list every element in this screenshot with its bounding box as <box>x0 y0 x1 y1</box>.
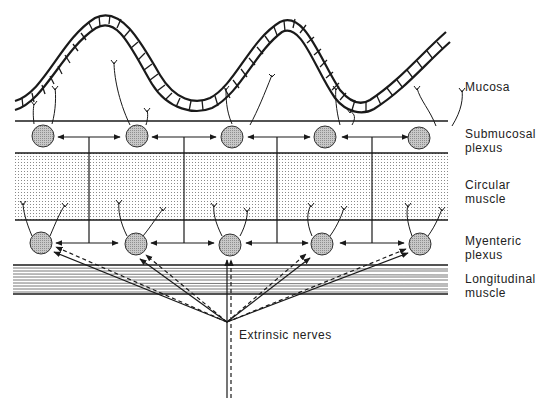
label-extrinsic-nerves: Extrinsic nerves <box>239 328 332 342</box>
circular-muscle-band <box>15 153 448 220</box>
submucosal-ganglion <box>32 125 54 147</box>
label-mucosa: Mucosa <box>465 80 510 94</box>
label-submucosal-line2: plexus <box>465 141 536 155</box>
submucosal-ganglion <box>126 125 148 147</box>
label-myenteric-line1: Myenteric <box>465 234 522 248</box>
submucosal-ganglion <box>408 127 430 149</box>
myenteric-ganglion <box>409 233 431 255</box>
label-submucosal-line1: Submucosal <box>465 127 536 141</box>
enteric-nervous-system-diagram <box>0 0 542 408</box>
label-longitudinal-muscle: Longitudinal muscle <box>465 272 536 300</box>
label-myenteric-line2: plexus <box>465 248 522 262</box>
label-circular-line2: muscle <box>465 192 510 206</box>
label-circular-line1: Circular <box>465 178 510 192</box>
myenteric-ganglion <box>311 233 333 255</box>
label-longitudinal-line2: muscle <box>465 286 536 300</box>
label-circular-muscle: Circular muscle <box>465 178 510 206</box>
label-submucosal-plexus: Submucosal plexus <box>465 127 536 155</box>
extrinsic-nerves <box>54 247 408 398</box>
label-longitudinal-line1: Longitudinal <box>465 272 536 286</box>
mucosa-epithelium <box>15 15 450 112</box>
submucosal-ganglion <box>314 126 336 148</box>
submucosal-dendrite-endings <box>31 60 465 113</box>
myenteric-ganglion <box>30 232 52 254</box>
submucosal-ganglion <box>221 126 243 148</box>
label-myenteric-plexus: Myenteric plexus <box>465 234 522 262</box>
myenteric-ganglion <box>219 234 241 256</box>
myenteric-ganglia <box>30 232 431 256</box>
myenteric-ganglion <box>125 233 147 255</box>
